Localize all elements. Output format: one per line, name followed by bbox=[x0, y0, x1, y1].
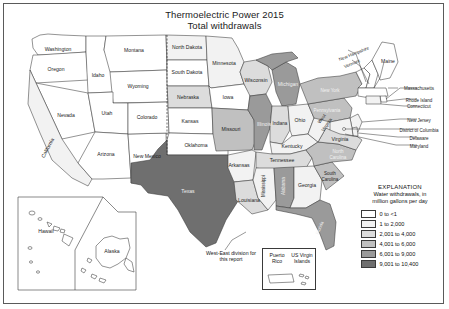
legend-item[interactable]: 1 to 2,000 bbox=[361, 219, 443, 228]
state-rhode-island[interactable] bbox=[380, 96, 387, 102]
label-south-carolina-line2: Carolina bbox=[322, 177, 339, 182]
label-illinois: Illinois bbox=[257, 121, 272, 127]
label-alaska: Alaska bbox=[104, 248, 119, 254]
label-michigan: Michigan bbox=[278, 81, 299, 87]
label-us-virgin-islands: US Virgin Islands bbox=[289, 252, 315, 264]
map-legend: EXPLANATION Water withdrawals, in millio… bbox=[357, 184, 443, 270]
state-montana[interactable] bbox=[104, 35, 167, 72]
label-tennessee: Tennessee bbox=[270, 157, 295, 163]
label-connecticut: Connecticut bbox=[407, 104, 432, 109]
label-maine: Maine bbox=[381, 58, 395, 64]
legend-item[interactable]: 4,001 to 6,000 bbox=[361, 240, 443, 249]
map-figure: Thermoelectric Power 2015 Total withdraw… bbox=[0, 0, 449, 309]
legend-item[interactable]: 9,001 to 10,400 bbox=[361, 260, 443, 269]
legend-label: 0 to <1 bbox=[380, 211, 397, 217]
label-oregon: Oregon bbox=[48, 66, 65, 72]
legend-label: 1 to 2,000 bbox=[380, 221, 405, 227]
legend-swatch bbox=[361, 210, 376, 218]
label-north-dakota: North Dakota bbox=[172, 44, 202, 50]
label-iowa: Iowa bbox=[223, 94, 234, 100]
label-virginia: Virginia bbox=[332, 136, 349, 142]
legend-heading: EXPLANATION bbox=[357, 184, 443, 190]
legend-swatch bbox=[361, 240, 376, 248]
label-puerto-rico: Puerto Rico bbox=[265, 252, 289, 264]
legend-label: 2,001 to 4,000 bbox=[380, 231, 416, 237]
legend-item[interactable]: 2,001 to 4,000 bbox=[361, 229, 443, 238]
alaska-panhandle[interactable] bbox=[124, 258, 134, 272]
legend-label: 4,001 to 6,000 bbox=[380, 241, 416, 247]
label-south-carolina-line1: South bbox=[324, 171, 336, 176]
label-alabama: Alabama bbox=[281, 177, 286, 195]
legend-subheading-line1: Water withdrawals, in bbox=[357, 191, 443, 198]
label-south-dakota: South Dakota bbox=[172, 69, 203, 75]
label-wyoming: Wyoming bbox=[127, 83, 148, 89]
label-nebraska: Nebraska bbox=[177, 94, 199, 100]
label-missouri: Missouri bbox=[222, 126, 241, 132]
legend-label: 9,001 to 10,400 bbox=[380, 261, 419, 267]
legend-label: 6,001 to 9,000 bbox=[380, 251, 416, 257]
caribbean-inset-frame: Puerto Rico US Virgin Islands bbox=[262, 248, 316, 290]
legend-swatch bbox=[361, 260, 376, 268]
label-georgia: Georgia bbox=[298, 182, 316, 188]
label-north-carolina-line2: Carolina bbox=[330, 155, 347, 160]
label-oklahoma: Oklahoma bbox=[184, 142, 207, 148]
legend-subheading-line2: million gallons per day bbox=[357, 198, 443, 205]
label-washington: Washington bbox=[45, 46, 72, 52]
hawaii-islands[interactable] bbox=[28, 211, 73, 273]
legend-class-list: 0 to <11 to 2,0002,001 to 4,0004,001 to … bbox=[361, 209, 443, 269]
label-hawaii: Hawaii bbox=[38, 228, 53, 234]
legend-item[interactable]: 0 to <1 bbox=[361, 209, 443, 218]
west-east-division-note: West-East division for this report bbox=[205, 250, 257, 263]
label-mississippi: Mississippi bbox=[261, 175, 266, 197]
label-north-carolina-line1: North bbox=[332, 149, 344, 154]
legend-swatch bbox=[361, 230, 376, 238]
label-ohio: Ohio bbox=[295, 117, 306, 123]
label-new-mexico: New Mexico bbox=[133, 153, 161, 159]
label-texas: Texas bbox=[181, 188, 195, 194]
label-louisiana: Louisiana bbox=[238, 197, 260, 203]
legend-swatch bbox=[361, 220, 376, 228]
label-pennsylvania: Pennsylvania bbox=[314, 108, 341, 113]
legend-item[interactable]: 6,001 to 9,000 bbox=[361, 250, 443, 259]
label-idaho: Idaho bbox=[92, 72, 105, 78]
label-montana: Montana bbox=[124, 47, 144, 53]
label-kansas: Kansas bbox=[182, 118, 199, 124]
label-arkansas: Arkansas bbox=[228, 162, 250, 168]
label-utah: Utah bbox=[102, 110, 113, 116]
label-minnesota: Minnesota bbox=[212, 60, 236, 66]
label-massachusetts: Massachusetts bbox=[404, 86, 435, 91]
label-indiana: Indiana bbox=[273, 121, 288, 126]
label-arizona: Arizona bbox=[97, 151, 114, 157]
legend-swatch bbox=[361, 250, 376, 258]
state-connecticut[interactable] bbox=[366, 96, 381, 104]
label-new-york: New York bbox=[320, 88, 340, 93]
label-nevada: Nevada bbox=[57, 112, 75, 118]
label-wisconsin: Wisconsin bbox=[244, 77, 267, 83]
label-colorado: Colorado bbox=[137, 114, 158, 120]
label-vermont: Vermont bbox=[343, 58, 361, 69]
label-kentucky: Kentucky bbox=[282, 143, 303, 149]
